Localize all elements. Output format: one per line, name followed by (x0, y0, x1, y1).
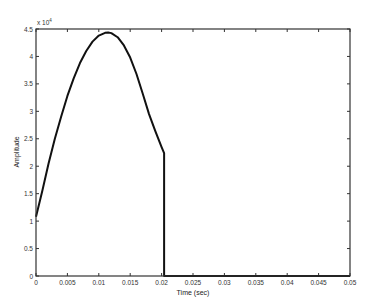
y-exponent-label: x 104 (37, 18, 52, 26)
y-tick-label: 0.5 (24, 245, 33, 252)
data-line (36, 33, 350, 276)
y-tick-label: 2 (29, 163, 33, 170)
y-tick-label: 1 (29, 218, 33, 225)
x-tick-label: 0.04 (281, 279, 294, 286)
y-tick-label: 3 (29, 108, 33, 115)
axes-box (36, 29, 350, 276)
y-tick-label: 4 (29, 53, 33, 60)
y-tick-label: 4.5 (24, 26, 33, 33)
y-tick-label: 1.5 (24, 190, 33, 197)
x-tick-label: 0.045 (310, 279, 327, 286)
x-tick-label: 0.025 (185, 279, 202, 286)
x-tick-label: 0 (34, 279, 38, 286)
x-tick-label: 0.05 (344, 279, 357, 286)
y-tick-label: 0 (29, 273, 33, 280)
x-tick-label: 0.005 (59, 279, 76, 286)
y-tick-label: 2.5 (24, 135, 33, 142)
x-axis-ticks: 00.0050.010.0150.020.0250.030.0350.040.0… (34, 29, 357, 286)
x-tick-label: 0.03 (218, 279, 231, 286)
y-axis-label: Amplitude (13, 136, 21, 167)
x-tick-label: 0.015 (122, 279, 139, 286)
x-tick-label: 0.01 (92, 279, 105, 286)
x-tick-label: 0.035 (248, 279, 265, 286)
line-chart: 00.0050.010.0150.020.0250.030.0350.040.0… (0, 0, 372, 307)
x-axis-label: Time (sec) (177, 289, 210, 297)
y-axis-ticks: 00.511.522.533.544.5 (24, 26, 350, 280)
x-tick-label: 0.02 (155, 279, 168, 286)
y-tick-label: 3.5 (24, 80, 33, 87)
